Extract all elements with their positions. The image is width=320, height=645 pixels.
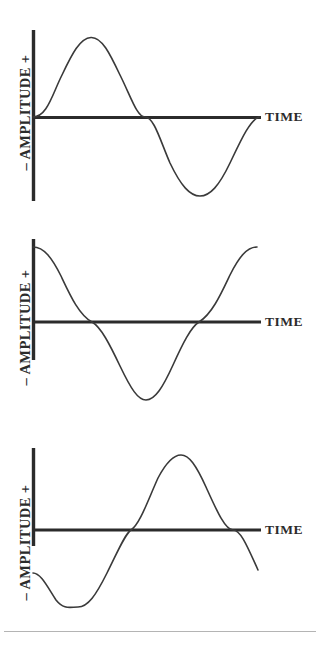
x-axis-title: TIME — [265, 110, 303, 124]
panel-cosine-quarter-phase: – AMPLITUDE + TIME — [0, 215, 320, 430]
waveform-figure: – AMPLITUDE + TIME – AMPLITUDE + TIME – … — [0, 0, 320, 645]
y-axis-title: – AMPLITUDE + — [14, 25, 36, 200]
panel-sine-negative-phase: – AMPLITUDE + TIME — [0, 430, 320, 645]
bottom-divider-rule — [4, 631, 316, 632]
x-axis-title: TIME — [265, 315, 303, 329]
panel-sine-zero-phase: – AMPLITUDE + TIME — [0, 0, 320, 215]
y-axis-title: – AMPLITUDE + — [14, 455, 36, 630]
x-axis-title: TIME — [265, 523, 303, 537]
panel-3-plot — [0, 430, 320, 645]
y-axis-title: – AMPLITUDE + — [14, 240, 36, 415]
panel-1-plot — [0, 0, 320, 215]
